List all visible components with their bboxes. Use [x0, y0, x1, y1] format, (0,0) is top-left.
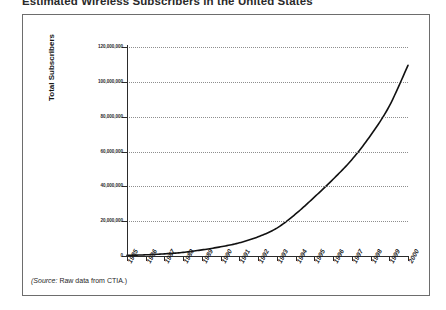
y-tick-label: 0 — [59, 253, 123, 258]
y-tick-label: 60,000,000 — [59, 149, 123, 154]
y-tick-label: 40,000,000 — [59, 183, 123, 188]
y-axis-title: Total Subscribers — [47, 34, 56, 101]
gridline — [127, 82, 408, 83]
gridline — [127, 117, 408, 118]
figure-frame: Total Subscribers 020,000,00040,000,0006… — [22, 14, 430, 296]
source-value: Raw data from CTIA.) — [59, 277, 127, 284]
page-title: Estimated Wireless Subscribers in the Un… — [22, 0, 422, 11]
gridline — [127, 186, 408, 187]
source-note: (Source: Raw data from CTIA.) — [31, 277, 127, 284]
gridline — [127, 152, 408, 153]
source-label: (Source: — [31, 277, 57, 284]
y-tick-label: 80,000,000 — [59, 114, 123, 119]
x-tick-label: 2000 — [407, 248, 420, 264]
gridline — [127, 221, 408, 222]
gridline — [127, 47, 408, 48]
y-tick-label: 120,000,000 — [59, 44, 123, 49]
y-tick-label: 100,000,000 — [59, 79, 123, 84]
y-tick-label: 20,000,000 — [59, 218, 123, 223]
